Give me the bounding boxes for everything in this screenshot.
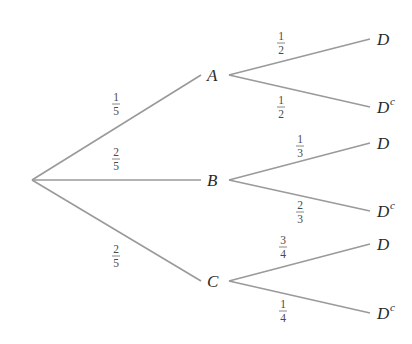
leaf-a-dc-superscript: c (390, 95, 395, 107)
leaf-a-dc-base: D (376, 98, 390, 117)
edge-a-to-dc (229, 75, 370, 107)
leaf-b-d: D (376, 134, 390, 153)
prob-c-d-denominator: 4 (280, 248, 286, 260)
edge-c-to-dc (229, 281, 370, 313)
leaf-c-d: D (376, 235, 390, 254)
prob-root-b: 2 5 (112, 146, 120, 172)
leaf-a-d: D (376, 30, 390, 49)
leaf-b-dc-superscript: c (390, 199, 395, 211)
prob-a-dc-denominator: 2 (278, 108, 284, 120)
edge-a-to-d (229, 39, 370, 75)
leaf-c-dc-base: D (376, 304, 390, 323)
node-c: C (207, 272, 219, 291)
prob-a-d: 1 2 (277, 30, 285, 56)
prob-c-d-numerator: 3 (280, 234, 286, 246)
prob-b-dc-numerator: 2 (297, 199, 303, 211)
prob-c-dc: 1 4 (279, 298, 287, 324)
leaf-a-dc: D c (376, 95, 395, 117)
node-b: B (207, 171, 218, 190)
branch-edges (229, 39, 370, 313)
level1-nodes: A B C (206, 66, 219, 291)
prob-root-a: 1 5 (112, 91, 120, 117)
prob-root-c: 2 5 (112, 243, 120, 269)
prob-root-b-denominator: 5 (113, 160, 119, 172)
prob-a-d-denominator: 2 (278, 44, 284, 56)
prob-a-d-numerator: 1 (278, 30, 284, 42)
leaf-c-dc-superscript: c (390, 301, 395, 313)
leaf-c-dc: D c (376, 301, 395, 323)
prob-root-a-denominator: 5 (113, 105, 119, 117)
prob-b-d-numerator: 1 (297, 133, 303, 145)
prob-b-d: 1 3 (296, 133, 304, 159)
probability-tree-diagram: A B C D D c D D c D D c 1 5 2 5 2 5 (0, 0, 412, 344)
prob-a-dc: 1 2 (277, 94, 285, 120)
prob-c-dc-numerator: 1 (280, 298, 286, 310)
leaf-b-dc: D c (376, 199, 395, 221)
prob-c-dc-denominator: 4 (280, 312, 286, 324)
leaf-b-dc-base: D (376, 202, 390, 221)
node-a: A (206, 66, 218, 85)
prob-c-d: 3 4 (279, 234, 287, 260)
prob-a-dc-numerator: 1 (278, 94, 284, 106)
prob-root-c-numerator: 2 (113, 243, 119, 255)
prob-b-dc-denominator: 3 (297, 213, 303, 225)
prob-b-d-denominator: 3 (297, 147, 303, 159)
edge-c-to-d (229, 244, 370, 281)
prob-root-b-numerator: 2 (113, 146, 119, 158)
prob-b-dc: 2 3 (296, 199, 304, 225)
prob-root-a-numerator: 1 (113, 91, 119, 103)
leaf-nodes: D D c D D c D D c (376, 30, 395, 323)
prob-root-c-denominator: 5 (113, 257, 119, 269)
